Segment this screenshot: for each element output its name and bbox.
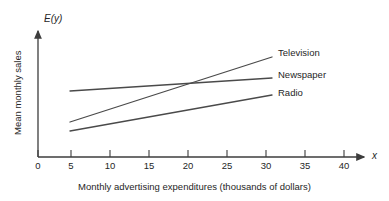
y-axis-title: Mean monthly sales xyxy=(13,45,23,141)
x-tick-label-10: 10 xyxy=(95,161,125,171)
x-tick-label-40: 40 xyxy=(329,161,359,171)
x-axis-variable-label: x xyxy=(372,151,377,161)
series-label-newspaper: Newspaper xyxy=(278,70,326,80)
x-tick-label-15: 15 xyxy=(134,161,164,171)
chart-figure: E(y) x 0 5 10 15 20 25 30 35 40 Monthly … xyxy=(0,0,389,201)
x-axis-ticks xyxy=(38,150,344,157)
x-axis-title: Monthly advertising expenditures (thousa… xyxy=(0,182,389,192)
series-line-radio xyxy=(70,95,272,131)
series-label-radio: Radio xyxy=(278,88,303,98)
y-axis-variable-label: E(y) xyxy=(44,14,62,24)
x-tick-label-20: 20 xyxy=(173,161,203,171)
x-tick-label-35: 35 xyxy=(290,161,320,171)
x-tick-label-5: 5 xyxy=(56,161,86,171)
x-tick-label-30: 30 xyxy=(251,161,281,171)
x-tick-label-25: 25 xyxy=(212,161,242,171)
x-tick-label-0: 0 xyxy=(23,161,53,171)
chart-plot-area xyxy=(0,0,389,201)
series-label-television: Television xyxy=(278,48,320,58)
